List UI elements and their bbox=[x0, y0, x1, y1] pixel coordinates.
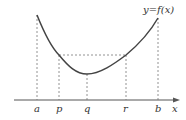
curve-f bbox=[37, 15, 158, 74]
x-axis-arrow-icon bbox=[173, 98, 180, 103]
tick-label-r: r bbox=[123, 103, 129, 114]
tick-label-b: b bbox=[155, 103, 161, 114]
tick-label-p: p bbox=[56, 103, 63, 114]
x-axis-label: x bbox=[172, 103, 178, 114]
curve-label: y=f(x) bbox=[142, 4, 174, 15]
tick-label-q: q bbox=[84, 103, 90, 114]
tick-label-a: a bbox=[34, 103, 40, 114]
function-graph: y=f(x) x a p q r b bbox=[0, 0, 186, 120]
